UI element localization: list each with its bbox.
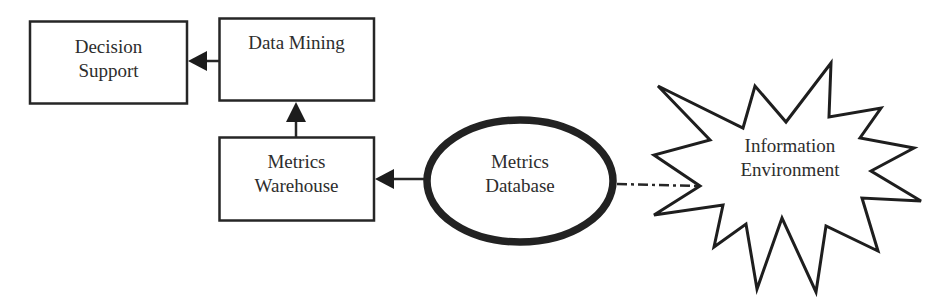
information-environment-line1: Information bbox=[710, 134, 870, 158]
data-mining-line1: Data Mining bbox=[219, 31, 374, 55]
information-environment-line2: Environment bbox=[710, 158, 870, 182]
arrow-warehouse-to-datamining bbox=[286, 102, 306, 137]
metrics-database-line1: Metrics bbox=[440, 150, 600, 174]
decision-support-line1: Decision bbox=[30, 35, 187, 59]
metrics-warehouse-line2: Warehouse bbox=[219, 174, 374, 198]
metrics-database-line2: Database bbox=[440, 174, 600, 198]
arrow-database-to-warehouse bbox=[375, 169, 425, 189]
metrics-database-label: Metrics Database bbox=[440, 150, 600, 198]
metrics-warehouse-label: Metrics Warehouse bbox=[219, 150, 374, 198]
information-environment-label: Information Environment bbox=[710, 134, 870, 182]
dashdot-database-to-environment bbox=[617, 184, 697, 186]
decision-support-label: Decision Support bbox=[30, 35, 187, 83]
decision-support-line2: Support bbox=[30, 59, 187, 83]
data-mining-label: Data Mining bbox=[219, 31, 374, 55]
metrics-warehouse-line1: Metrics bbox=[219, 150, 374, 174]
arrow-datamining-to-decisionsupport bbox=[188, 51, 219, 71]
